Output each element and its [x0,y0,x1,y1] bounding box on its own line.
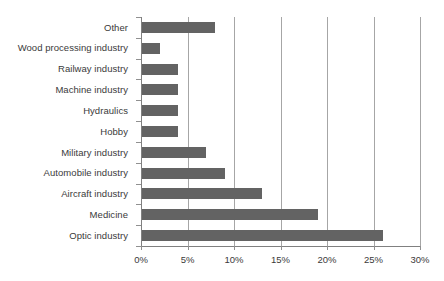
bar-row [141,204,420,225]
x-axis-tick [327,246,328,250]
bar [141,84,178,95]
y-axis-tick [136,204,141,205]
x-axis-tick-label: 0% [121,253,161,267]
y-axis-tick [136,79,141,80]
category-label: Hobby [0,121,133,142]
bar [141,126,178,137]
y-axis-tick [136,163,141,164]
gridline [420,17,421,246]
y-axis-tick [136,17,141,18]
bar [141,22,215,33]
bar-row [141,142,420,163]
plot-area [141,17,420,246]
x-axis-labels: 0%5%10%15%20%25%30% [0,253,444,269]
bar-row [141,59,420,80]
bar [141,209,318,220]
x-axis-tick [281,246,282,250]
bar-chart: Other Wood processing industry Railway i… [0,0,444,281]
bar [141,230,383,241]
y-axis-tick [136,225,141,226]
x-axis-tick-label: 25% [354,253,394,267]
category-label: Aircraft industry [0,184,133,205]
category-label: Wood processing industry [0,38,133,59]
category-label: Hydraulics [0,100,133,121]
bar [141,43,160,54]
bar-row [141,17,420,38]
bar-series [141,17,420,246]
x-axis-tick-label: 30% [400,253,440,267]
category-axis-labels: Other Wood processing industry Railway i… [0,17,133,246]
x-axis-tick [188,246,189,250]
category-label: Railway industry [0,59,133,80]
y-axis-tick [136,59,141,60]
bar-row [141,163,420,184]
x-axis-tick-label: 20% [307,253,347,267]
x-axis-tick [420,246,421,250]
category-label: Military industry [0,142,133,163]
category-label: Optic industry [0,225,133,246]
bar-row [141,184,420,205]
x-axis-tick [141,246,142,250]
category-label: Automobile industry [0,163,133,184]
y-axis-tick [136,100,141,101]
bar-row [141,100,420,121]
bar-row [141,121,420,142]
bar-row [141,79,420,100]
bar [141,64,178,75]
x-axis-tick [374,246,375,250]
y-axis-tick [136,184,141,185]
bar [141,168,225,179]
category-label: Medicine [0,204,133,225]
x-axis-tick-label: 10% [214,253,254,267]
x-axis-tick-label: 15% [261,253,301,267]
bar-row [141,38,420,59]
y-axis-tick [136,142,141,143]
y-axis-tick [136,121,141,122]
bar [141,105,178,116]
category-label: Machine industry [0,79,133,100]
bar [141,147,206,158]
x-axis-tick-label: 5% [168,253,208,267]
x-axis-tick [234,246,235,250]
category-label: Other [0,17,133,38]
y-axis-line [141,17,142,247]
bar-row [141,225,420,246]
bar [141,188,262,199]
y-axis-tick [136,38,141,39]
